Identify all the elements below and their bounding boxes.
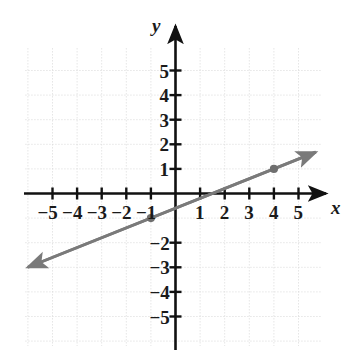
x-axis-label: x (331, 198, 341, 217)
axis-lines (24, 26, 326, 350)
coordinate-plane-svg (0, 0, 354, 359)
x-tick-label: −5 (38, 203, 58, 222)
y-tick-label: −5 (150, 308, 170, 327)
y-tick-label: 5 (160, 62, 170, 81)
x-tick-label: −1 (136, 203, 156, 222)
data-point (270, 165, 278, 173)
y-tick-label: −3 (150, 258, 170, 277)
x-tick-label: −3 (87, 203, 107, 222)
x-tick-label: 5 (294, 203, 304, 222)
x-tick-label: 1 (195, 203, 205, 222)
y-tick-label: 2 (160, 135, 170, 154)
x-tick-label: 3 (244, 203, 254, 222)
x-tick-label: −2 (111, 203, 131, 222)
x-tick-label: 4 (269, 203, 279, 222)
y-tick-label: 4 (160, 86, 170, 105)
y-axis-label: y (152, 16, 160, 35)
y-tick-label: −4 (150, 283, 170, 302)
grid-lines (25, 48, 321, 346)
chart-figure: −5−4−3−2−11234554321−2−3−4−5 y x (0, 0, 354, 359)
y-tick-label: 3 (160, 111, 170, 130)
x-tick-label: −4 (62, 203, 82, 222)
y-tick-label: −2 (150, 234, 170, 253)
x-tick-label: 2 (220, 203, 230, 222)
y-tick-label: 1 (160, 160, 170, 179)
